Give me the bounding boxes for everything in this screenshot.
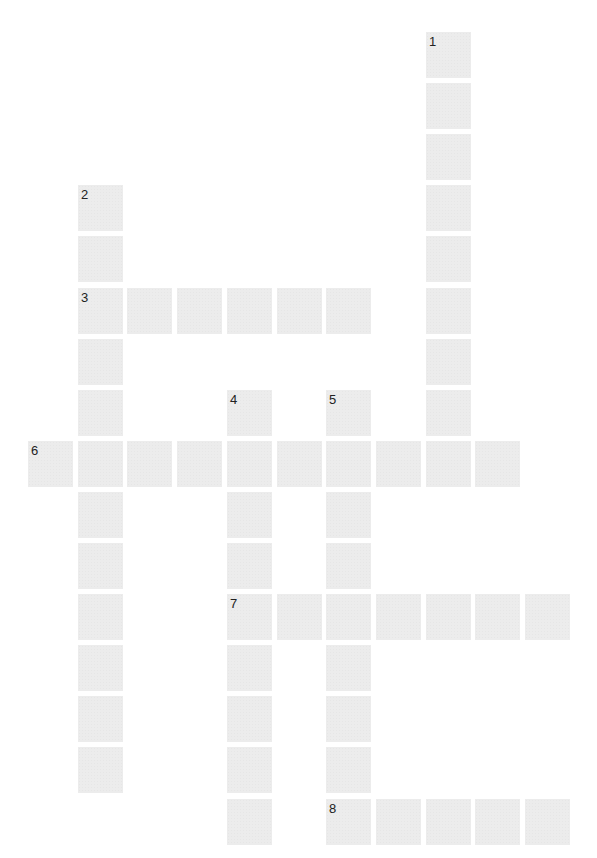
- clue-number: 1: [429, 35, 436, 48]
- crossword-cell[interactable]: 4: [227, 390, 272, 436]
- crossword-cell[interactable]: [227, 543, 272, 589]
- crossword-cell[interactable]: [326, 645, 371, 691]
- crossword-cell[interactable]: [78, 492, 123, 538]
- crossword-cell[interactable]: [475, 594, 520, 640]
- crossword-cell[interactable]: [376, 441, 421, 487]
- crossword-cell[interactable]: [426, 799, 471, 845]
- crossword-cell[interactable]: [78, 339, 123, 385]
- crossword-cell[interactable]: [426, 83, 471, 129]
- crossword-cell[interactable]: [525, 594, 570, 640]
- crossword-cell[interactable]: [227, 645, 272, 691]
- clue-number: 3: [81, 291, 88, 304]
- crossword-cell[interactable]: [326, 492, 371, 538]
- crossword-cell[interactable]: [426, 236, 471, 282]
- crossword-cell[interactable]: [78, 645, 123, 691]
- crossword-cell[interactable]: [227, 441, 272, 487]
- crossword-cell[interactable]: [227, 492, 272, 538]
- crossword-cell[interactable]: [277, 441, 322, 487]
- crossword-cell[interactable]: [326, 543, 371, 589]
- crossword-cell[interactable]: 1: [426, 32, 471, 78]
- crossword-cell[interactable]: [525, 799, 570, 845]
- clue-number: 5: [329, 393, 336, 406]
- crossword-cell[interactable]: [475, 441, 520, 487]
- crossword-cell[interactable]: [376, 594, 421, 640]
- crossword-cell[interactable]: [426, 185, 471, 231]
- crossword-cell[interactable]: [426, 594, 471, 640]
- clue-number: 7: [230, 597, 237, 610]
- crossword-cell[interactable]: [326, 747, 371, 793]
- clue-number: 6: [31, 444, 38, 457]
- crossword-cell[interactable]: [277, 288, 322, 334]
- crossword-cell[interactable]: [227, 799, 272, 845]
- crossword-cell[interactable]: [326, 288, 371, 334]
- crossword-cell[interactable]: [475, 799, 520, 845]
- crossword-cell[interactable]: 7: [227, 594, 272, 640]
- clue-number: 8: [329, 802, 336, 815]
- crossword-cell[interactable]: [426, 288, 471, 334]
- crossword-cell[interactable]: [127, 441, 172, 487]
- crossword-cell[interactable]: [376, 799, 421, 845]
- crossword-cell[interactable]: [78, 236, 123, 282]
- crossword-cell[interactable]: [78, 543, 123, 589]
- crossword-cell[interactable]: [78, 441, 123, 487]
- clue-number: 2: [81, 188, 88, 201]
- crossword-cell[interactable]: 3: [78, 288, 123, 334]
- crossword-cell[interactable]: [227, 288, 272, 334]
- crossword-grid: 12347586: [0, 0, 597, 858]
- crossword-cell[interactable]: 8: [326, 799, 371, 845]
- crossword-cell[interactable]: [326, 594, 371, 640]
- crossword-cell[interactable]: [426, 134, 471, 180]
- crossword-cell[interactable]: [78, 696, 123, 742]
- crossword-cell[interactable]: [177, 288, 222, 334]
- crossword-cell[interactable]: [127, 288, 172, 334]
- crossword-cell[interactable]: 5: [326, 390, 371, 436]
- crossword-cell[interactable]: 6: [28, 441, 73, 487]
- crossword-cell[interactable]: [227, 696, 272, 742]
- crossword-cell[interactable]: 2: [78, 185, 123, 231]
- crossword-cell[interactable]: [78, 390, 123, 436]
- crossword-cell[interactable]: [78, 747, 123, 793]
- crossword-cell[interactable]: [177, 441, 222, 487]
- crossword-cell[interactable]: [426, 339, 471, 385]
- crossword-cell[interactable]: [426, 441, 471, 487]
- crossword-cell[interactable]: [78, 594, 123, 640]
- crossword-cell[interactable]: [326, 441, 371, 487]
- crossword-cell[interactable]: [277, 594, 322, 640]
- clue-number: 4: [230, 393, 237, 406]
- crossword-cell[interactable]: [227, 747, 272, 793]
- crossword-cell[interactable]: [326, 696, 371, 742]
- crossword-cell[interactable]: [426, 390, 471, 436]
